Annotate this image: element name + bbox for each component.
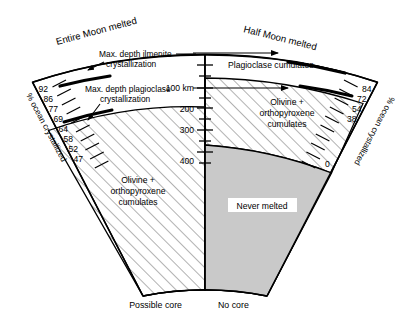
annotation-ilmenite-line2: crystallization [106, 59, 157, 69]
label-plagioclase-cumulates: Plagioclase cumulates [228, 60, 314, 70]
title-entire-moon-melted: Entire Moon melted [55, 15, 138, 47]
label-never-melted: Never melted [236, 201, 287, 211]
depth-tick-label-300: 300 [180, 125, 195, 135]
left-axis-label-92: 92 [38, 84, 48, 94]
left-axis-label-47: 47 [73, 154, 83, 164]
label-left-olivine-opx-l1: Olivine + [121, 175, 155, 185]
label-left-olivine-opx-l3: cumulates [118, 197, 157, 207]
label-possible-core: Possible core [129, 300, 182, 310]
left-axis-label-69: 69 [53, 114, 63, 124]
title-half-moon-melted: Half Moon melted [243, 23, 319, 52]
annotation-plagioclase-line1: Max. depth plagioclase [85, 84, 171, 94]
moon-magma-ocean-diagram: 100 km 200 300 400 92 86 77 69 64 58 52 … [0, 0, 410, 313]
label-right-olivine-opx-l3: cumulates [267, 119, 306, 129]
right-axis-label-0: 0 [325, 159, 330, 169]
right-axis-label-54: 54 [352, 104, 362, 114]
left-axis-label-86: 86 [43, 94, 53, 104]
right-axis-label-72: 72 [357, 94, 367, 104]
left-axis-label-52: 52 [68, 144, 78, 154]
never-melted-region [205, 145, 332, 296]
annotation-ilmenite-line1: Max. depth ilmenite [99, 49, 172, 59]
left-axis-label-77: 77 [48, 104, 58, 114]
left-axis-label-58: 58 [63, 134, 73, 144]
depth-tick-label-200: 200 [180, 104, 195, 114]
label-right-olivine-opx-l2: orthopyroxene [260, 108, 315, 118]
left-axis-label-64: 64 [58, 124, 68, 134]
label-no-core: No core [218, 300, 249, 310]
right-axis-label-84: 84 [362, 84, 372, 94]
label-right-olivine-opx-l1: Olivine + [270, 97, 304, 107]
depth-tick-label-400: 400 [180, 156, 195, 166]
right-axis-label-38: 38 [347, 114, 357, 124]
label-left-olivine-opx-l2: orthopyroxene [111, 186, 166, 196]
annotation-plagioclase-line2: crystallization [100, 94, 151, 104]
